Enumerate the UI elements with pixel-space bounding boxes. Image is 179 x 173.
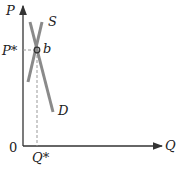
- y-axis-label: P: [6, 4, 15, 17]
- quantity-star-label: Q*: [32, 151, 49, 164]
- origin-label: 0: [9, 141, 17, 154]
- demand-label: D: [58, 104, 68, 117]
- equilibrium-label: b: [43, 42, 51, 55]
- supply-demand-diagram: [0, 0, 179, 173]
- demand-curve: [30, 22, 53, 112]
- supply-label: S: [48, 15, 57, 28]
- price-star-label: P*: [2, 44, 17, 57]
- x-axis-label: Q: [165, 139, 176, 152]
